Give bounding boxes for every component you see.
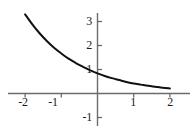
- chart-canvas: 3 2 1 -1 -2 -1 1 2: [0, 0, 196, 132]
- y-tick-label-minus-1: -1: [70, 111, 92, 123]
- x-tick-label-2: 2: [162, 96, 178, 108]
- y-tick-label-2: 2: [76, 39, 92, 51]
- y-tick-label-1: 1: [76, 63, 92, 75]
- x-tick-label-minus-1: -1: [42, 96, 64, 108]
- plot-svg: [0, 0, 196, 132]
- y-tick-label-3: 3: [76, 15, 92, 27]
- x-tick-label-1: 1: [125, 96, 141, 108]
- x-tick-label-minus-2: -2: [12, 96, 34, 108]
